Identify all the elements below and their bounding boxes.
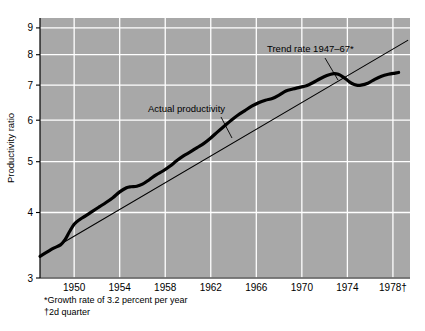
y-tick-label: 9	[27, 22, 33, 33]
footnote-growth-rate: *Growth rate of 3.2 percent per year	[44, 295, 188, 305]
footnote-quarter: †2d quarter	[44, 307, 90, 317]
x-tick-label: 1970	[291, 282, 314, 293]
trend-rate-annotation: Trend rate 1947–67*	[267, 43, 354, 54]
chart-canvas: 3456789 19501954195819621966197019741978…	[0, 0, 425, 331]
x-tick-label: 1954	[109, 282, 132, 293]
y-tick-label: 3	[27, 273, 33, 284]
y-tick-label: 5	[27, 156, 33, 167]
x-tick-label: 1950	[63, 282, 86, 293]
y-tick-label: 4	[27, 207, 33, 218]
x-tick-label: 1958	[154, 282, 177, 293]
productivity-chart-figure: 3456789 19501954195819621966197019741978…	[0, 0, 425, 331]
x-tick-label: 1978†	[379, 282, 407, 293]
x-tick-label: 1974	[336, 282, 359, 293]
x-tick-label: 1966	[245, 282, 268, 293]
x-tick-label: 1962	[200, 282, 223, 293]
y-tick-label: 6	[27, 115, 33, 126]
y-axis-title: Productivity ratio	[5, 113, 16, 183]
y-tick-label: 7	[27, 80, 33, 91]
actual-productivity-annotation: Actual productivity	[148, 103, 225, 114]
y-tick-label: 8	[27, 49, 33, 60]
